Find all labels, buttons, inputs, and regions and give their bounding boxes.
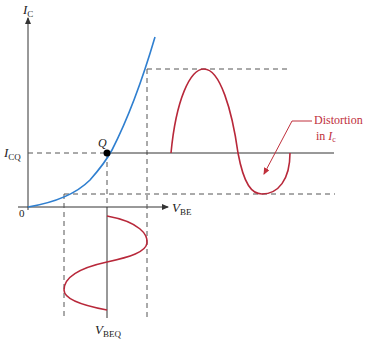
y-axis-label: IC [22,2,33,19]
q-point [104,150,111,157]
dashed-guides [28,69,335,320]
annotation-pointer [264,121,312,174]
diagram-canvas: IC VBE 0 ICQ Q VBEQ Distortion in Ic [0,0,368,350]
output-signal [171,69,290,194]
vbeq-label: VBEQ [95,322,121,339]
distortion-label-2: in Ic [316,129,336,144]
x-axis-label: VBE [172,200,192,217]
icq-label: ICQ [3,145,21,162]
q-label: Q [98,136,107,150]
transfer-curve [28,37,155,207]
distortion-label-1: Distortion [314,113,363,127]
origin-label: 0 [19,207,25,219]
input-signal [64,216,147,310]
